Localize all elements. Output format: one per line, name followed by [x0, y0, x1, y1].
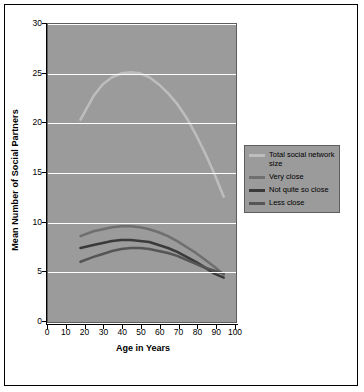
- y-tick-mark: [42, 271, 46, 272]
- gridline: [48, 223, 236, 224]
- y-tick-mark: [42, 23, 46, 24]
- x-tick-mark: [160, 325, 161, 329]
- x-tick-mark: [235, 325, 236, 329]
- y-tick-label: 0: [9, 316, 42, 326]
- legend-swatch: [249, 189, 265, 192]
- x-tick-mark: [122, 325, 123, 329]
- y-tick-mark: [42, 73, 46, 74]
- y-tick-mark: [42, 321, 46, 322]
- gridline: [48, 272, 236, 273]
- legend-label: Less close: [269, 198, 304, 207]
- x-tick-mark: [66, 325, 67, 329]
- gridline: [48, 74, 236, 75]
- x-tick-mark: [103, 325, 104, 329]
- x-axis-line: [46, 324, 238, 325]
- y-tick-mark: [42, 122, 46, 123]
- series-line: [80, 72, 223, 196]
- x-tick-mark: [179, 325, 180, 329]
- chart-frame: Mean Number of Social Partners 051015202…: [4, 4, 358, 386]
- y-axis-title-label: Mean Number of Social Partners: [10, 109, 20, 251]
- x-tick-mark: [141, 325, 142, 329]
- y-tick-label: 15: [9, 167, 42, 177]
- y-tick-label: 30: [9, 18, 42, 28]
- series-line: [80, 248, 223, 274]
- y-tick-label: 20: [9, 117, 42, 127]
- legend-swatch: [249, 176, 265, 179]
- plot-area: [47, 23, 237, 323]
- legend-item: Not quite so close: [249, 185, 335, 194]
- gridline: [48, 24, 236, 25]
- x-axis-title: Age in Years: [47, 343, 239, 353]
- y-tick-label: 10: [9, 217, 42, 227]
- legend-item: Very close: [249, 172, 335, 181]
- y-tick-label: 25: [9, 68, 42, 78]
- legend-label: Very close: [269, 172, 304, 181]
- y-tick-mark: [42, 172, 46, 173]
- legend-label: Not quite so close: [269, 185, 329, 194]
- x-tick-mark: [85, 325, 86, 329]
- legend-swatch: [249, 154, 265, 157]
- x-tick-mark: [197, 325, 198, 329]
- legend: Total social network sizeVery closeNot q…: [244, 145, 340, 213]
- x-tick-mark: [216, 325, 217, 329]
- gridline: [48, 173, 236, 174]
- legend-label: Total social network size: [269, 150, 335, 168]
- legend-item: Total social network size: [249, 150, 335, 168]
- legend-swatch: [249, 202, 265, 205]
- y-axis-title: Mean Number of Social Partners: [7, 35, 23, 325]
- y-tick-mark: [42, 222, 46, 223]
- gridline: [48, 123, 236, 124]
- x-tick-mark: [47, 325, 48, 329]
- legend-item: Less close: [249, 198, 335, 207]
- y-tick-label: 5: [9, 266, 42, 276]
